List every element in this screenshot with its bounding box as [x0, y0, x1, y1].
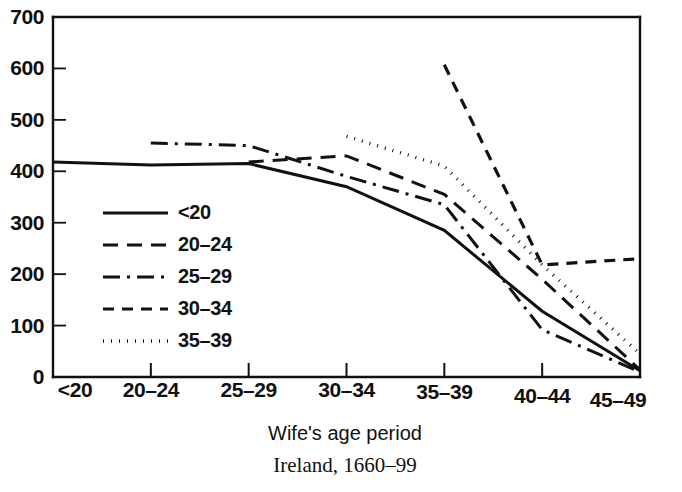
y-tick-label-200: 200	[10, 262, 44, 285]
legend-label-1: 20–24	[178, 233, 233, 255]
y-tick-label-300: 300	[10, 211, 44, 234]
legend-label-3: 30–34	[178, 297, 233, 319]
line-chart-canvas: 0100200300400500600700 <2020–2425–2930–3…	[0, 0, 682, 492]
x-axis-title: Wife's age period	[268, 422, 422, 444]
y-tick-label-400: 400	[10, 159, 44, 182]
y-tick-label-600: 600	[10, 56, 44, 79]
y-tick-label-100: 100	[10, 314, 44, 337]
y-tick-label-0: 0	[33, 365, 44, 388]
x-tick-label-5: 40–44	[514, 384, 571, 407]
chart-figure: 0100200300400500600700 <2020–2425–2930–3…	[0, 0, 682, 492]
x-tick-label-4: 35–39	[416, 380, 472, 403]
y-tick-label-700: 700	[10, 5, 44, 28]
legend-label-2: 25–29	[178, 265, 232, 287]
legend-label-4: 35–39	[178, 329, 232, 351]
legend-label-0: <20	[178, 201, 211, 223]
x-tick-label-6: 45–49	[590, 388, 646, 411]
chart-caption: Ireland, 1660–99	[273, 453, 416, 477]
x-tick-label-2: 25–29	[220, 378, 276, 401]
chart-background	[0, 0, 682, 492]
x-tick-label-1: 20–24	[123, 378, 180, 401]
x-tick-label-0: <20	[58, 378, 92, 401]
x-tick-label-3: 30–34	[318, 378, 375, 401]
y-tick-label-500: 500	[10, 108, 44, 131]
